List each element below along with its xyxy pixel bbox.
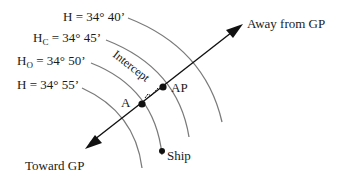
arrow-toward-icon (85, 135, 102, 149)
a-point (138, 100, 145, 107)
label-h-34-55: H = 34° 55’ (17, 77, 79, 92)
label-a: A (121, 95, 131, 110)
label-ap: AP (171, 80, 188, 95)
arrow-away-icon (226, 24, 243, 38)
altitude-arc-34-55 (82, 88, 142, 168)
label-away-from-gp: Away from GP (247, 16, 325, 31)
ap-point (159, 83, 166, 90)
label-h-34-40: H = 34° 40’ (63, 9, 125, 24)
label-ship: Ship (167, 148, 191, 163)
intercept-diagram: H = 34° 40’ HC = 34° 45’ HO = 34° 50’ H … (0, 0, 342, 179)
label-hc-34-45: HC = 34° 45’ (33, 30, 101, 47)
label-toward-gp: Toward GP (25, 158, 84, 173)
intercept-bracket (145, 88, 158, 98)
label-ho-34-50: HO = 34° 50’ (17, 53, 86, 70)
ship-point (159, 148, 165, 154)
